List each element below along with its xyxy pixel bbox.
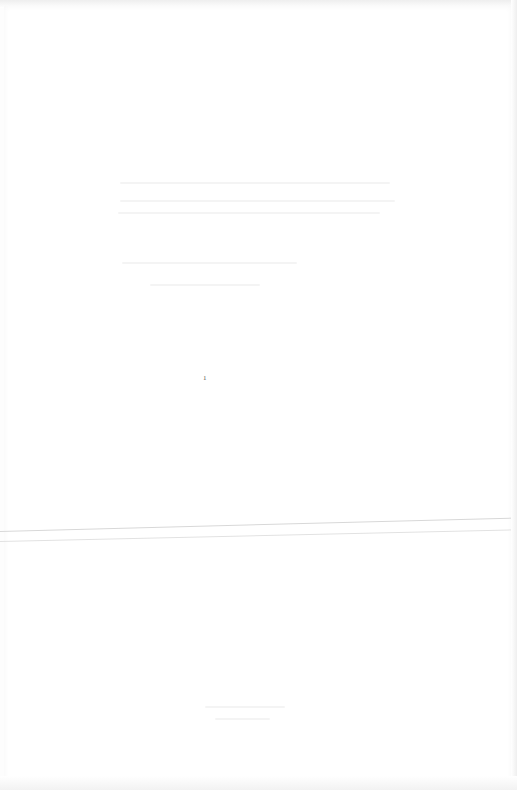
title-line-1 xyxy=(120,182,390,184)
subtitle-line-1 xyxy=(122,262,297,264)
subtitle-line-2 xyxy=(150,284,260,286)
page-number: 1 xyxy=(203,374,207,382)
scan-edge-right xyxy=(511,0,517,790)
scan-edge-bottom xyxy=(0,776,517,790)
imprint-line-1 xyxy=(205,706,285,708)
title-line-2 xyxy=(120,200,395,202)
document-page xyxy=(4,6,512,790)
imprint-line-2 xyxy=(215,718,270,720)
title-line-3 xyxy=(118,212,380,214)
